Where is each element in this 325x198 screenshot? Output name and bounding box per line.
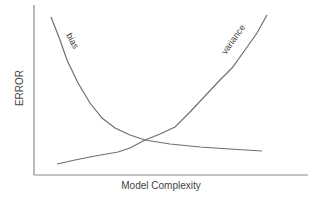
- x-axis-label: Model Complexity: [121, 180, 200, 191]
- bias-variance-diagram: bias variance ERROR Model Complexity: [0, 0, 325, 198]
- y-axis-label: ERROR: [14, 70, 25, 106]
- variance-label: variance: [219, 23, 247, 57]
- bias-label: bias: [64, 31, 81, 51]
